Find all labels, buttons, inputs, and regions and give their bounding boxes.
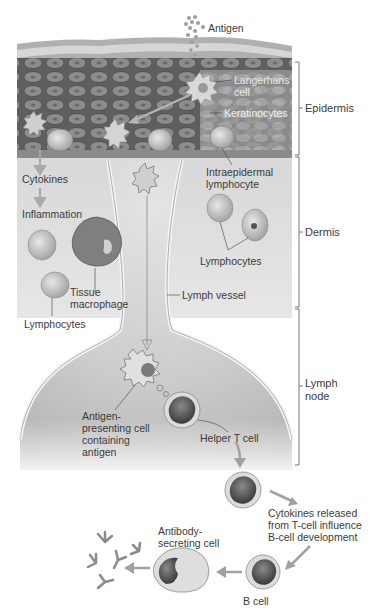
intraepidermal-lymphocyte bbox=[47, 129, 73, 151]
label-antigen-presenting-cell: Antigen- presenting cell containing anti… bbox=[82, 410, 150, 458]
label-lymph-node: Lymph node bbox=[305, 377, 338, 403]
label-intraepidermal-lymphocyte: Intraepidermal lymphocyte bbox=[206, 166, 273, 190]
label-langerhans-cell: Langerhans cell bbox=[234, 74, 289, 98]
nucleus bbox=[251, 223, 257, 229]
label-cytokines-released: Cytokines released from T-cell influence… bbox=[268, 507, 362, 543]
label-tissue-macrophage: Tissue macrophage bbox=[70, 286, 128, 310]
arrow-to-b-cell bbox=[285, 546, 310, 570]
label-dermis: Dermis bbox=[305, 226, 340, 239]
helper-t-cell bbox=[164, 391, 201, 428]
activated-t-cell bbox=[225, 471, 262, 508]
label-antigen: Antigen bbox=[208, 22, 244, 34]
lymphocyte-dermis-1 bbox=[28, 230, 56, 260]
intraepidermal-lymphocyte bbox=[210, 126, 234, 148]
label-cytokines: Cytokines bbox=[22, 173, 68, 185]
bottom-fade bbox=[0, 420, 300, 480]
arrow-b-to-plasma bbox=[216, 566, 242, 578]
label-keratinocytes: Keratinocytes bbox=[224, 107, 288, 119]
label-lymphocytes-right: Lymphocytes bbox=[200, 255, 261, 267]
label-helper-t-cell: Helper T cell bbox=[200, 432, 259, 444]
label-lymphocytes-left: Lymphocytes bbox=[24, 318, 85, 330]
antibody-secreting-cell bbox=[153, 548, 209, 592]
label-b-cell: B cell bbox=[243, 595, 269, 607]
intraepidermal-lymphocyte bbox=[148, 129, 172, 151]
region-brackets bbox=[295, 62, 303, 465]
lymphocyte-dermis-2 bbox=[41, 272, 69, 298]
lymphocyte-dermis-3 bbox=[207, 194, 233, 222]
label-antibody-secreting-cell: Antibody- secreting cell bbox=[158, 525, 219, 549]
antibodies bbox=[88, 532, 140, 588]
label-epidermis: Epidermis bbox=[305, 102, 354, 115]
b-cell bbox=[246, 555, 280, 589]
label-inflammation: Inflammation bbox=[22, 208, 82, 220]
label-lymph-vessel: Lymph vessel bbox=[182, 289, 246, 301]
tissue-macrophage bbox=[72, 217, 121, 266]
arrow-plasma-to-antibodies bbox=[124, 562, 150, 574]
arrow-to-cytokines-text bbox=[270, 491, 298, 506]
